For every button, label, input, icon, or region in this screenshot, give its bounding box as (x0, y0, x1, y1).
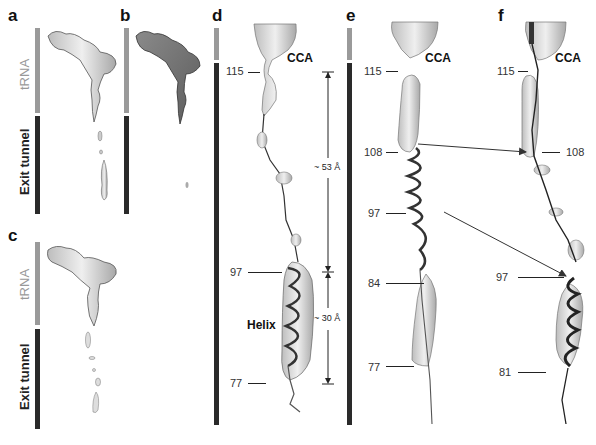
cca-label-e: CCA (425, 51, 451, 65)
tick-77-d (248, 383, 266, 384)
trna-density-a (48, 31, 116, 200)
tick-77-e (386, 366, 414, 367)
tick-108-f (542, 152, 560, 153)
measurement-53: ~ 53 Å (314, 162, 340, 172)
residue-108-e: 108 (364, 146, 382, 158)
cca-label-d: CCA (287, 51, 313, 65)
trna-density-b (136, 31, 200, 188)
panel-e-structure (392, 22, 439, 424)
tick-108-e (386, 152, 398, 153)
residue-115-e: 115 (364, 65, 382, 77)
tick-97-e (386, 213, 406, 214)
tick-115-f (518, 71, 528, 72)
panel-d-structure (254, 24, 314, 412)
tick-115-d (248, 72, 260, 73)
residue-77-d: 77 (230, 377, 242, 389)
tick-97-d (248, 272, 282, 273)
residue-97-d: 97 (230, 266, 242, 278)
tick-97-f (518, 277, 564, 278)
tick-81-f (518, 372, 546, 373)
residue-81-f: 81 (499, 366, 511, 378)
residue-77-e: 77 (368, 361, 380, 373)
panel-f-structure (522, 22, 584, 424)
residue-84-e: 84 (368, 277, 380, 289)
measurement-30: ~ 30 Å (314, 313, 340, 323)
helix-label-d: Helix (247, 318, 276, 332)
tick-84-e (386, 283, 424, 284)
arrow-97 (444, 212, 566, 276)
cca-label-f: CCA (555, 51, 581, 65)
arrow-108 (418, 144, 526, 152)
trna-density-c (48, 246, 117, 412)
tick-115-e (386, 71, 398, 72)
residue-97-e: 97 (368, 207, 380, 219)
residue-115-f: 115 (497, 65, 515, 77)
residue-108-f: 108 (566, 146, 584, 158)
residue-97-f: 97 (496, 271, 508, 283)
residue-115-d: 115 (226, 65, 244, 77)
